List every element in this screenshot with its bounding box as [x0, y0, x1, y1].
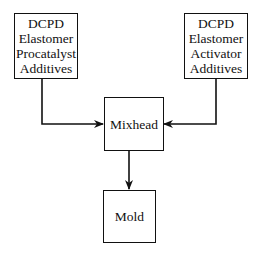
flowchart-canvas: DCPD Elastomer Procatalyst Additives DCP… — [0, 0, 262, 254]
procatalyst-line-1: DCPD — [16, 16, 76, 31]
mixhead-label: Mixhead — [110, 117, 158, 132]
mixhead-box: Mixhead — [104, 97, 164, 151]
procatalyst-line-4: Additives — [16, 61, 76, 76]
activator-line-3: Activator — [189, 46, 244, 61]
activator-line-1: DCPD — [189, 16, 244, 31]
mold-label: Mold — [115, 209, 144, 224]
arrow-activator-to-mixhead — [164, 78, 216, 124]
procatalyst-line-3: Procatalyst — [16, 46, 76, 61]
mold-box: Mold — [103, 190, 156, 243]
activator-line-4: Additives — [189, 61, 244, 76]
activator-line-2: Elastomer — [189, 31, 244, 46]
procatalyst-box: DCPD Elastomer Procatalyst Additives — [14, 13, 78, 79]
activator-box: DCPD Elastomer Activator Additives — [184, 13, 248, 79]
arrow-procatalyst-to-mixhead — [42, 78, 103, 124]
procatalyst-line-2: Elastomer — [16, 31, 76, 46]
